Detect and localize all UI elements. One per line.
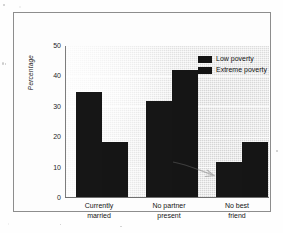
scan-speck <box>5 63 6 65</box>
y-tick-10: 10 <box>43 164 61 172</box>
x-label-line1: No partner <box>135 201 203 211</box>
legend-label-low-poverty: Low poverty <box>216 55 254 63</box>
x-axis-line <box>65 197 269 198</box>
y-axis-line <box>65 46 66 198</box>
scan-speck <box>3 4 5 6</box>
y-tick-20: 20 <box>43 133 61 141</box>
scan-speck <box>276 150 278 152</box>
legend-swatch-low-poverty-icon <box>198 56 212 63</box>
x-label-line1: Currently <box>65 201 133 211</box>
bar-no-best-friend-low-poverty <box>216 162 242 199</box>
y-tick-40: 40 <box>43 72 61 80</box>
x-label-no-partner-present: No partner present <box>135 201 203 221</box>
bar-currently-married-extreme-poverty <box>102 142 128 198</box>
scanned-page: Percentage 50 40 30 20 10 0 <box>0 0 283 233</box>
bar-currently-married-low-poverty <box>76 92 102 198</box>
bar-no-partner-present-low-poverty <box>146 101 172 198</box>
scan-speck <box>60 224 61 225</box>
x-label-line2: friend <box>205 211 269 221</box>
x-label-currently-married: Currently married <box>65 201 133 221</box>
legend-item-low-poverty: Low poverty <box>198 55 272 63</box>
y-tick-50: 50 <box>43 42 61 50</box>
y-tick-0: 0 <box>43 194 61 202</box>
x-label-line1: No best <box>205 201 269 211</box>
bar-no-partner-present-extreme-poverty <box>172 70 198 198</box>
y-axis-tick-labels: 50 40 30 20 10 0 <box>41 46 61 198</box>
legend-label-extreme-poverty: Extreme poverty <box>216 66 267 74</box>
figure-frame: Percentage 50 40 30 20 10 0 <box>13 12 271 212</box>
scan-speck <box>120 226 122 227</box>
y-axis-title: Percentage <box>27 38 34 108</box>
y-tick-30: 30 <box>43 103 61 111</box>
chart-legend: Low poverty Extreme poverty <box>198 55 272 77</box>
x-label-line2: married <box>65 211 133 221</box>
x-label-no-best-friend: No best friend <box>205 201 269 221</box>
bar-no-best-friend-extreme-poverty <box>242 142 268 198</box>
legend-item-extreme-poverty: Extreme poverty <box>198 66 272 74</box>
legend-swatch-extreme-poverty-icon <box>198 67 212 74</box>
x-label-line2: present <box>135 211 203 221</box>
scan-speck <box>2 62 4 65</box>
